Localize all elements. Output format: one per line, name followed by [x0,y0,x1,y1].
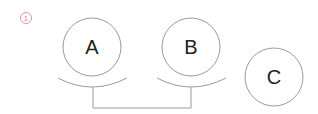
connector-a-b [93,87,191,108]
diagram-canvas: 1 A B C [0,0,318,114]
step-marker-label: 1 [24,14,29,23]
step-marker: 1 [21,13,32,24]
node-a-base-arc [58,78,127,87]
node-a-label: A [85,36,99,58]
node-b-base-arc [157,78,226,87]
node-c-label: C [267,66,281,88]
node-b: B [157,18,226,87]
node-a: A [58,18,127,87]
node-b-label: B [184,36,197,58]
node-c: C [245,48,303,106]
